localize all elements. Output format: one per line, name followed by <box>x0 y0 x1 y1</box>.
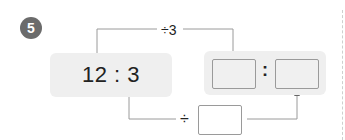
divisor-answer-box[interactable] <box>198 105 242 135</box>
dashed-divider <box>342 10 343 140</box>
answer-box-second-term[interactable] <box>275 59 319 89</box>
bottom-operation-symbol: ÷ <box>180 110 189 128</box>
problem-number-badge: 5 <box>20 17 42 39</box>
answer-box-first-term[interactable] <box>212 59 256 89</box>
given-ratio: 12 : 3 <box>82 62 140 88</box>
answer-colon: : <box>262 60 268 81</box>
top-operation-label: ÷3 <box>158 22 179 38</box>
given-ratio-panel: 12 : 3 <box>50 53 172 97</box>
